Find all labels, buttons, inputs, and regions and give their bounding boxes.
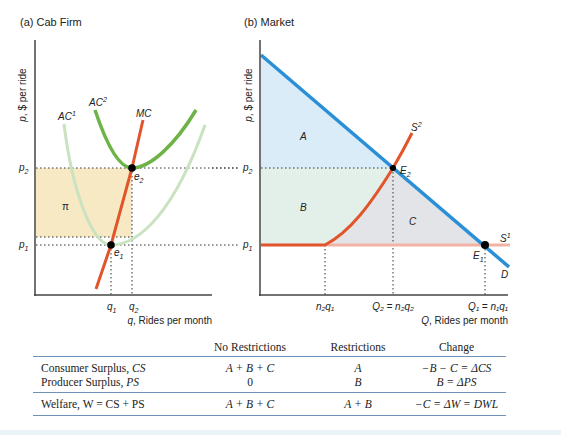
cab-firm-panel: (a) Cab Firm p, $ per ride p2 p1 q1 q2 q…	[17, 16, 240, 326]
demand-label: D	[501, 269, 508, 280]
header-change: Change	[407, 340, 506, 357]
region-c-label: C	[409, 216, 417, 227]
table-row-consumer-surplus: Consumer Surplus, CS A + B + C A −B − C …	[33, 357, 506, 376]
q1-market-label: Q₁ = n₁q₁	[468, 301, 508, 312]
q2-market-label: Q₂ = n₂q₂	[372, 301, 414, 312]
table-header-row: No Restrictions Restrictions Change	[33, 340, 506, 357]
region-a-label: A	[299, 131, 307, 142]
cell-restrictions: A	[309, 357, 407, 376]
e1-market-label: E1	[473, 250, 484, 263]
cell-no-restrictions: A + B + C	[191, 393, 309, 416]
table-row-producer-surplus: Producer Surplus, PS 0 B B = ΔPS	[33, 375, 506, 393]
e1-label: e1	[114, 247, 124, 260]
n2q1-label: n₂q₁	[316, 301, 334, 312]
cell-no-restrictions: 0	[191, 375, 309, 393]
row-label: Producer Surplus, PS	[33, 375, 191, 393]
cell-restrictions: B	[309, 375, 407, 393]
left-p2-label: p2	[18, 162, 29, 175]
q2-label: q2	[129, 301, 139, 314]
right-p1-label: p1	[242, 239, 253, 252]
market-title: (b) Market	[244, 16, 294, 28]
table-row-welfare: Welfare, W = CS + PS A + B + C A + B −C …	[33, 393, 506, 416]
header-no-restrictions: No Restrictions	[191, 340, 309, 357]
surplus-table: No Restrictions Restrictions Change Cons…	[33, 340, 506, 416]
left-y-axis-label: p, $ per ride	[17, 68, 28, 123]
profit-label: π	[62, 201, 69, 212]
s2-label: S2	[411, 121, 422, 133]
header-restrictions: Restrictions	[309, 340, 407, 357]
right-p2-label: p2	[242, 162, 253, 175]
market-e2-point	[390, 165, 396, 171]
cell-change: B = ΔPS	[407, 375, 506, 393]
row-label: Welfare, W = CS + PS	[33, 393, 191, 416]
profit-region	[36, 168, 132, 237]
left-x-axis-label: q, Rides per month	[128, 315, 213, 326]
cell-no-restrictions: A + B + C	[191, 357, 309, 376]
surplus-figure: (a) Cab Firm p, $ per ride p2 p1 q1 q2 q…	[0, 0, 561, 335]
left-p1-label: p1	[18, 239, 29, 252]
row-label: Consumer Surplus, CS	[33, 357, 191, 376]
cell-change: −C = ΔW = DWL	[407, 393, 506, 416]
s1-label: S1	[500, 232, 511, 244]
cell-restrictions: A + B	[309, 393, 407, 416]
right-y-axis-label: p, $ per ride	[243, 68, 254, 123]
region-b-label: B	[300, 202, 307, 213]
cab-firm-title: (a) Cab Firm	[20, 16, 82, 28]
header-blank	[33, 340, 191, 357]
market-e1-point	[481, 241, 489, 249]
right-x-axis-label: Q, Rides per month	[421, 315, 508, 326]
bottom-band	[0, 430, 561, 435]
ac1-label: AC1	[57, 110, 76, 122]
mc-label: MC	[136, 108, 152, 119]
market-panel: (b) Market p, $ per ride p2 p1 n₂q₁ Q₂ =	[212, 16, 511, 326]
e2-label: e2	[134, 171, 144, 184]
cell-change: −B − C = ΔCS	[407, 357, 506, 376]
q1-label: q1	[107, 301, 117, 314]
ac2-label: AC2	[88, 96, 107, 108]
